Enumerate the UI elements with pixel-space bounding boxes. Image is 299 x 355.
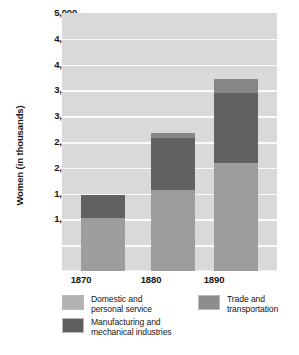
bar-segment-1890-trade — [214, 79, 258, 93]
legend-label-trade: Trade and transportation — [227, 294, 278, 314]
bar-1870 — [81, 195, 125, 271]
gridline-4500 — [62, 39, 277, 41]
legend-row-1: Domestic and personal service Trade and … — [62, 294, 294, 317]
x-axis-tick-1890: 1890 — [179, 274, 249, 285]
bar-segment-1890-manufacturing — [214, 93, 258, 163]
legend-swatch-domestic-icon — [62, 295, 84, 310]
plot-area — [62, 13, 277, 271]
bar-segment-1870-manufacturing — [81, 195, 125, 218]
x-axis-tick-1880: 1880 — [116, 274, 186, 285]
legend-swatch-trade-icon — [198, 295, 220, 310]
stacked-bar-chart: Women (in thousands) 5,000 4,500 4,000 3… — [0, 0, 299, 355]
legend-item-manufacturing: Manufacturing and mechanical industries — [62, 317, 172, 337]
legend-item-domestic: Domestic and personal service — [62, 294, 152, 314]
bar-segment-1880-domestic — [151, 190, 195, 272]
bar-segment-1870-domestic — [81, 218, 125, 271]
legend-label-domestic: Domestic and personal service — [91, 294, 152, 314]
chart-legend: Domestic and personal service Trade and … — [62, 294, 294, 340]
x-axis-tick-1870: 1870 — [46, 274, 116, 285]
gridline-4000 — [62, 65, 277, 67]
bar-segment-1890-domestic — [214, 163, 258, 271]
legend-row-2: Manufacturing and mechanical industries — [62, 317, 294, 340]
bar-1880 — [151, 133, 195, 271]
legend-swatch-manufacturing-icon — [62, 318, 84, 333]
legend-label-manufacturing: Manufacturing and mechanical industries — [91, 317, 172, 337]
legend-item-trade: Trade and transportation — [198, 294, 278, 314]
bar-segment-1880-manufacturing — [151, 138, 195, 189]
bar-1890 — [214, 79, 258, 271]
